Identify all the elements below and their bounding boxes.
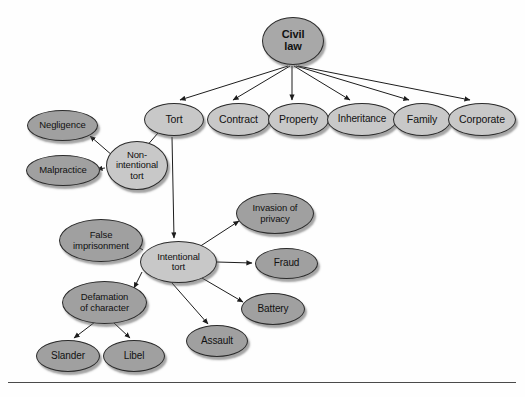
node-contract[interactable]: Contract [207,103,270,136]
node-property[interactable]: Property [268,103,329,136]
node-fraud[interactable]: Fraud [255,248,318,279]
bottom-rule [8,382,516,383]
node-civil_law[interactable]: Civillaw [262,17,324,65]
edge-intentional-to-fraud [217,262,252,263]
node-label: Intentionaltort [155,252,202,273]
edge-tort-to-intentional [172,137,174,238]
node-label: Property [277,114,320,125]
node-negligence[interactable]: Negligence [27,110,98,141]
node-label: Falseimprisonment [71,230,131,251]
node-defamation[interactable]: Defamationof character [62,281,147,324]
node-label: Civillaw [280,29,307,53]
node-invasion_privacy[interactable]: Invasion ofprivacy [236,193,314,234]
node-label: Contract [217,114,260,125]
node-inheritance[interactable]: Inheritance [327,103,397,136]
node-intentional[interactable]: Intentionaltort [140,241,217,283]
node-label: Battery [256,304,291,315]
node-label: Corporate [457,114,507,125]
node-libel[interactable]: Libel [103,340,165,372]
diagram-canvas: CivillawTortContractPropertyInheritanceF… [0,0,525,397]
node-label: Assault [199,336,235,347]
node-malpractice[interactable]: Malpractice [26,155,100,186]
node-label: Libel [122,351,147,362]
node-label: Slander [49,351,87,362]
edge-civil_law-to-family [296,66,409,100]
edge-intentional-to-battery [202,278,243,302]
edge-intentional-to-invasion_privacy [199,221,239,247]
edge-intentional-to-assault [172,283,208,324]
node-label: Inheritance [336,114,388,125]
node-family[interactable]: Family [393,103,451,136]
node-non_intentional[interactable]: Non-intentionaltort [106,141,168,190]
node-assault[interactable]: Assault [186,325,248,357]
edge-defamation-to-slander [74,322,95,338]
node-label: Malpractice [37,165,88,175]
node-label: Tort [163,114,184,125]
edge-civil_law-to-corporate [298,66,470,100]
node-slander[interactable]: Slander [36,340,100,372]
node-label: Fraud [272,258,302,269]
node-battery[interactable]: Battery [241,293,305,325]
node-label: Invasion ofprivacy [251,203,300,224]
edge-civil_law-to-tort [180,66,288,100]
edge-civil_law-to-contract [233,66,290,100]
edge-defamation-to-libel [113,322,130,338]
node-label: Non-intentionaltort [114,150,160,181]
node-label: Negligence [37,120,88,130]
node-corporate[interactable]: Corporate [448,103,516,136]
edge-intentional-to-defamation [134,272,142,288]
node-false_imprison[interactable]: Falseimprisonment [59,219,143,262]
node-label: Defamationof character [78,292,131,313]
node-tort[interactable]: Tort [144,103,204,136]
node-label: Family [405,114,439,125]
